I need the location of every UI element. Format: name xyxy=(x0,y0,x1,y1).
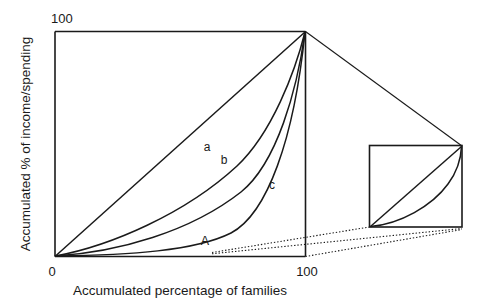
curve-label-b: b xyxy=(221,153,228,167)
y-axis-tick-100: 100 xyxy=(51,11,73,26)
y-axis-title: Accumulated % of income/spending xyxy=(18,37,33,252)
figure-canvas: 100 0 100 Accumulated percentage of fami… xyxy=(0,0,484,308)
lorenz-curve-figure: 100 0 100 Accumulated percentage of fami… xyxy=(0,0,484,308)
inset-line-of-equality xyxy=(371,147,462,227)
x-axis-title: Accumulated percentage of families xyxy=(73,283,287,298)
series-line-of-equality xyxy=(56,32,306,256)
inset-connector-group xyxy=(212,32,462,257)
curve-label-a: a xyxy=(204,140,211,154)
connector-bottom-right-dotted-line xyxy=(306,230,463,257)
curve-label-c: c xyxy=(269,178,275,192)
x-axis-tick-100: 100 xyxy=(296,264,318,279)
x-axis-tick-0: 0 xyxy=(48,264,55,279)
point-label-A: A xyxy=(201,234,210,248)
inset-magnification-box xyxy=(370,146,463,228)
main-plot-series xyxy=(56,32,306,256)
connector-top-solid-line xyxy=(306,32,463,147)
